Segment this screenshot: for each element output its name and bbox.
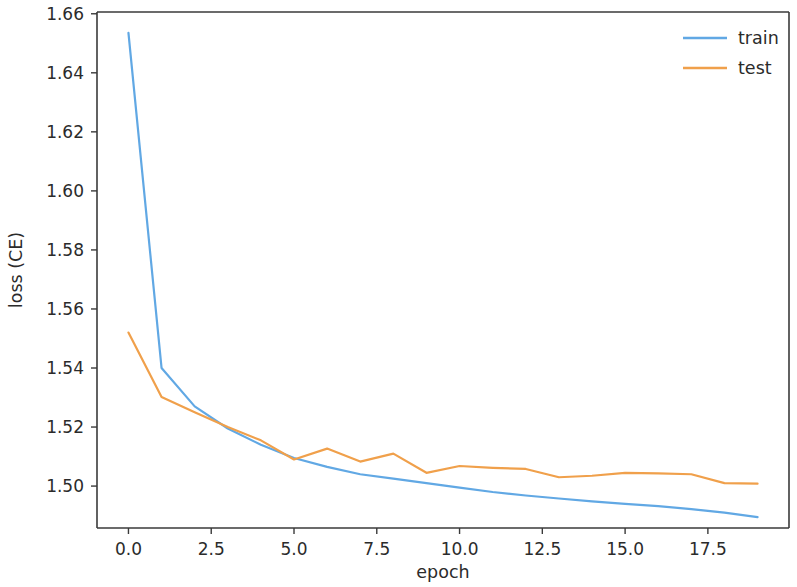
x-tick-label: 5.0	[280, 539, 307, 559]
y-tick-label: 1.66	[46, 4, 84, 24]
legend-label-train: train	[738, 28, 779, 48]
legend-label-test: test	[738, 58, 772, 78]
line-chart-canvas: 1.501.521.541.561.581.601.621.641.66 0.0…	[0, 0, 797, 587]
x-tick-label: 15.0	[606, 539, 644, 559]
y-tick-label: 1.60	[46, 181, 84, 201]
x-tick-label: 7.5	[363, 539, 390, 559]
y-tick-label: 1.62	[46, 122, 84, 142]
y-tick-label: 1.56	[46, 299, 84, 319]
x-tick-label: 2.5	[198, 539, 225, 559]
y-axis-title: loss (CE)	[6, 232, 26, 308]
y-tick-label: 1.50	[46, 476, 84, 496]
x-tick-label: 17.5	[689, 539, 727, 559]
x-tick-label: 10.0	[441, 539, 479, 559]
x-tick-label: 0.0	[115, 539, 142, 559]
figure-background	[0, 0, 797, 587]
x-axis-title: epoch	[416, 562, 469, 582]
y-tick-label: 1.58	[46, 240, 84, 260]
y-tick-label: 1.64	[46, 63, 84, 83]
x-tick-label: 12.5	[523, 539, 561, 559]
y-tick-label: 1.54	[46, 358, 84, 378]
y-tick-label: 1.52	[46, 417, 84, 437]
chart-figure: 1.501.521.541.561.581.601.621.641.66 0.0…	[0, 0, 797, 587]
